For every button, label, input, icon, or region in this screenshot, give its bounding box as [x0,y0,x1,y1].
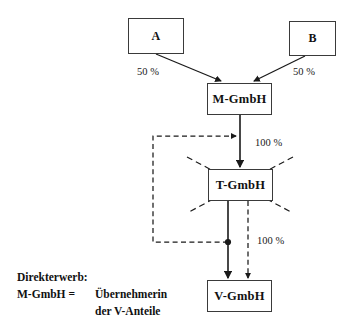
legend-der-v-anteile: der V-Anteile [95,305,160,317]
node-t-gmbh[interactable]: T-GmbH [208,169,273,201]
node-a-label: A [152,29,161,44]
edge-label-m-to-t: 100 % [255,137,282,148]
node-m-gmbh[interactable]: M-GmbH [207,83,272,115]
node-m-gmbh-label: M-GmbH [213,92,267,107]
legend-uebernehmerin: Übernehmerin [95,288,167,300]
edge-label-b-to-m: 50 % [293,66,315,77]
edge-label-a-to-m: 50 % [137,66,159,77]
node-t-gmbh-label: T-GmbH [216,178,265,193]
node-v-gmbh-label: V-GmbH [214,289,264,304]
edge-label-t-to-v: 100 % [257,235,284,246]
corporate-structure-diagram: A B M-GmbH T-GmbH V-GmbH 50 % 50 % 100 %… [0,0,349,328]
node-v-gmbh[interactable]: V-GmbH [207,280,272,312]
node-b-label: B [308,31,316,46]
junction-dot [225,239,231,245]
legend-m-gmbh-equals: M-GmbH = [17,288,75,300]
edge-a-to-m [156,54,221,81]
legend-direkterwerb: Direkterwerb: [17,271,88,283]
node-b[interactable]: B [289,21,336,56]
node-a[interactable]: A [128,18,184,54]
